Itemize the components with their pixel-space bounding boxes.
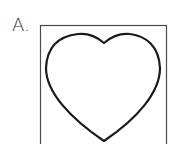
figure-panel <box>0 0 176 144</box>
heart-icon <box>46 34 160 141</box>
